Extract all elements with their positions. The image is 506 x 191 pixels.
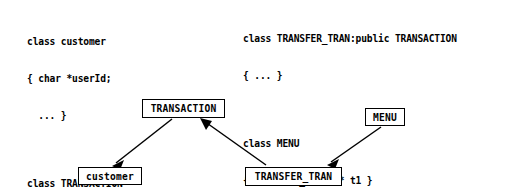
- class-box-transaction[interactable]: TRANSACTION: [142, 99, 225, 118]
- relationship-layer: [0, 0, 506, 191]
- edge-menu-to-transfer-tran: [327, 127, 381, 169]
- arrow-svg: [0, 0, 506, 191]
- class-box-label: TRANSFER_TRAN: [255, 171, 333, 182]
- class-box-transfer-tran[interactable]: TRANSFER_TRAN: [245, 167, 342, 186]
- diagram-canvas: class customer { char *userId; ... } cla…: [0, 0, 506, 191]
- edge-transfer-tran-to-transaction: [200, 118, 266, 165]
- class-box-menu[interactable]: MENU: [365, 108, 405, 126]
- class-box-label: MENU: [373, 112, 397, 123]
- edge-transaction-to-customer: [112, 119, 172, 170]
- class-box-customer[interactable]: customer: [78, 167, 142, 185]
- class-box-label: TRANSACTION: [151, 103, 217, 114]
- class-box-label: customer: [86, 171, 134, 182]
